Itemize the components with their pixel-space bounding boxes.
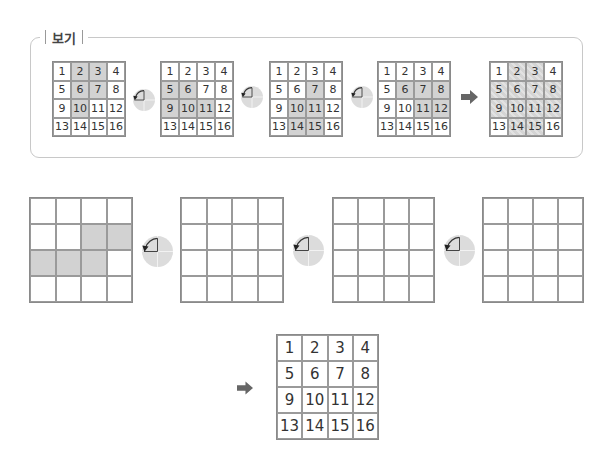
grid-cell: 7 bbox=[197, 81, 215, 100]
grid-cell bbox=[56, 198, 82, 224]
grid-cell[interactable] bbox=[358, 276, 383, 302]
grid-cell: 3 bbox=[89, 62, 107, 81]
grid-cell[interactable] bbox=[358, 224, 383, 250]
grid-cell[interactable] bbox=[384, 224, 409, 250]
grid-cell[interactable] bbox=[384, 276, 409, 302]
problem-grid-3[interactable] bbox=[332, 197, 435, 303]
grid-cell[interactable] bbox=[181, 224, 207, 250]
grid-cell[interactable]: 11 bbox=[328, 387, 353, 413]
grid-cell[interactable] bbox=[333, 276, 358, 302]
grid-cell: 14 bbox=[508, 118, 526, 137]
answer-grid[interactable]: 12345678910111213141516 bbox=[276, 334, 379, 440]
grid-cell[interactable] bbox=[181, 276, 207, 302]
grid-cell[interactable] bbox=[533, 198, 558, 224]
grid-cell: 9 bbox=[270, 99, 288, 118]
grid-cell: 13 bbox=[490, 118, 508, 137]
grid-cell[interactable] bbox=[232, 250, 258, 276]
grid-cell[interactable] bbox=[558, 198, 583, 224]
grid-cell[interactable] bbox=[533, 224, 558, 250]
grid-cell: 6 bbox=[71, 81, 89, 100]
grid-cell: 7 bbox=[89, 81, 107, 100]
grid-cell[interactable]: 15 bbox=[328, 413, 353, 439]
grid-cell[interactable] bbox=[409, 224, 434, 250]
grid-cell[interactable] bbox=[258, 276, 284, 302]
grid-cell[interactable] bbox=[558, 250, 583, 276]
grid-cell: 1 bbox=[270, 62, 288, 81]
grid-cell[interactable] bbox=[558, 224, 583, 250]
grid-cell[interactable] bbox=[333, 198, 358, 224]
grid-cell[interactable] bbox=[558, 276, 583, 302]
rotate-ccw-icon bbox=[351, 86, 373, 108]
grid-cell[interactable] bbox=[207, 198, 233, 224]
grid-cell[interactable]: 3 bbox=[328, 335, 353, 361]
grid-cell: 15 bbox=[306, 118, 324, 137]
grid-cell[interactable] bbox=[258, 198, 284, 224]
grid-cell[interactable] bbox=[207, 276, 233, 302]
grid-cell[interactable]: 5 bbox=[277, 361, 302, 387]
grid-cell: 7 bbox=[414, 81, 432, 100]
grid-cell[interactable] bbox=[333, 250, 358, 276]
grid-cell[interactable] bbox=[384, 198, 409, 224]
grid-cell[interactable] bbox=[483, 224, 508, 250]
grid-cell[interactable] bbox=[258, 250, 284, 276]
grid-cell[interactable]: 13 bbox=[277, 413, 302, 439]
grid-cell bbox=[81, 276, 107, 302]
grid-cell[interactable] bbox=[232, 224, 258, 250]
grid-cell: 6 bbox=[179, 81, 197, 100]
grid-cell[interactable] bbox=[207, 250, 233, 276]
grid-cell[interactable]: 10 bbox=[302, 387, 327, 413]
problem-grid-2[interactable] bbox=[180, 197, 284, 303]
grid-cell: 4 bbox=[432, 62, 450, 81]
grid-cell[interactable] bbox=[207, 224, 233, 250]
grid-cell[interactable]: 2 bbox=[302, 335, 327, 361]
grid-cell[interactable] bbox=[508, 250, 533, 276]
grid-cell[interactable] bbox=[181, 198, 207, 224]
grid-cell[interactable] bbox=[508, 198, 533, 224]
grid-cell: 2 bbox=[288, 62, 306, 81]
grid-cell[interactable]: 16 bbox=[353, 413, 378, 439]
grid-cell[interactable] bbox=[232, 276, 258, 302]
grid-cell[interactable] bbox=[409, 276, 434, 302]
grid-cell: 9 bbox=[378, 99, 396, 118]
grid-cell[interactable] bbox=[358, 250, 383, 276]
grid-cell[interactable]: 6 bbox=[302, 361, 327, 387]
grid-cell: 8 bbox=[544, 81, 562, 100]
grid-cell[interactable]: 1 bbox=[277, 335, 302, 361]
example-grid-4: 12345678910111213141516 bbox=[377, 61, 451, 137]
grid-cell[interactable]: 12 bbox=[353, 387, 378, 413]
grid-cell: 15 bbox=[197, 118, 215, 137]
grid-cell[interactable]: 9 bbox=[277, 387, 302, 413]
rotate-ccw-icon bbox=[241, 86, 263, 108]
rotate-ccw-glyph bbox=[444, 235, 475, 266]
grid-cell[interactable] bbox=[533, 250, 558, 276]
grid-cell bbox=[56, 276, 82, 302]
grid-cell[interactable] bbox=[508, 276, 533, 302]
grid-cell[interactable] bbox=[409, 198, 434, 224]
rotate-ccw-glyph bbox=[351, 86, 373, 108]
grid-cell[interactable] bbox=[508, 224, 533, 250]
grid-cell bbox=[56, 250, 82, 276]
grid-cell[interactable] bbox=[483, 198, 508, 224]
grid-cell[interactable]: 7 bbox=[328, 361, 353, 387]
grid-cell[interactable] bbox=[384, 250, 409, 276]
grid-cell[interactable] bbox=[358, 198, 383, 224]
grid-cell[interactable] bbox=[409, 250, 434, 276]
grid-cell[interactable] bbox=[533, 276, 558, 302]
grid-cell: 16 bbox=[324, 118, 342, 137]
problem-grid-4[interactable] bbox=[482, 197, 584, 303]
grid-cell[interactable] bbox=[258, 224, 284, 250]
grid-cell: 3 bbox=[306, 62, 324, 81]
grid-cell: 12 bbox=[544, 99, 562, 118]
grid-cell[interactable] bbox=[181, 250, 207, 276]
grid-cell: 11 bbox=[89, 99, 107, 118]
grid-cell bbox=[30, 250, 56, 276]
grid-cell[interactable] bbox=[333, 224, 358, 250]
grid-cell[interactable] bbox=[232, 198, 258, 224]
grid-cell[interactable] bbox=[483, 276, 508, 302]
grid-cell bbox=[81, 224, 107, 250]
grid-cell[interactable]: 4 bbox=[353, 335, 378, 361]
grid-cell[interactable] bbox=[483, 250, 508, 276]
grid-cell: 9 bbox=[490, 99, 508, 118]
grid-cell[interactable]: 8 bbox=[353, 361, 378, 387]
grid-cell[interactable]: 14 bbox=[302, 413, 327, 439]
